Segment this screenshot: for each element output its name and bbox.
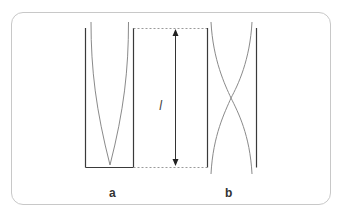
- length-indicator: [134, 29, 208, 168]
- panel-a-right-curve: [110, 22, 129, 165]
- arrow-up-icon: [173, 29, 179, 36]
- panel-a-figure: [86, 22, 134, 168]
- panel-a-label: a: [109, 186, 116, 200]
- panel-b-label: b: [225, 186, 232, 200]
- panel-b-figure: [208, 22, 257, 174]
- arrow-down-icon: [173, 159, 179, 166]
- panel-a-left-curve: [91, 22, 110, 165]
- panel-b-curve-2: [211, 22, 252, 174]
- length-label: l: [159, 99, 162, 113]
- diagram-canvas: [0, 0, 341, 217]
